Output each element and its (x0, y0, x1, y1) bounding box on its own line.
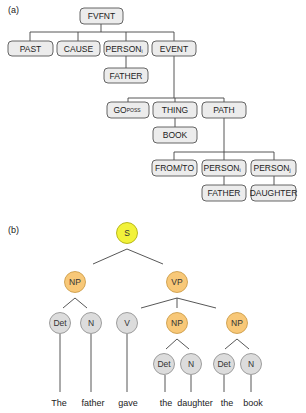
word: father (81, 398, 104, 408)
svg-text:PERSONi: PERSONi (203, 163, 240, 173)
svg-text:PATH: PATH (213, 105, 234, 115)
svg-text:CAUSE: CAUSE (64, 44, 94, 54)
svg-text:FATHER: FATHER (110, 71, 143, 81)
svg-text:NP: NP (231, 318, 243, 328)
svg-text:FROM/TO: FROM/TO (155, 163, 194, 173)
node-s: S (117, 223, 138, 244)
node-path: PATH (202, 102, 246, 118)
svg-text:Det: Det (53, 318, 67, 328)
svg-text:N: N (248, 359, 254, 369)
node-det-1: Det (50, 313, 71, 334)
node-np-indirect: NP (167, 313, 188, 334)
word: the (221, 398, 234, 408)
word: The (51, 398, 67, 408)
svg-text:PAST: PAST (20, 44, 42, 54)
word: gave (118, 398, 138, 408)
node-person-i: PERSONi (104, 41, 148, 56)
node-father-2: FATHER (202, 185, 246, 201)
svg-text:NP: NP (171, 318, 183, 328)
svg-text:BOOK: BOOK (163, 130, 188, 140)
svg-text:Det: Det (217, 359, 231, 369)
svg-text:V: V (124, 318, 130, 328)
node-det-3: Det (214, 354, 235, 375)
svg-text:N: N (88, 318, 94, 328)
diagram-canvas: (a) FVFNT PAST CAUSE PERSONi (0, 0, 306, 413)
svg-text:NP: NP (69, 277, 81, 287)
node-np-direct: NP (227, 313, 248, 334)
node-n-2: N (181, 354, 202, 375)
node-from-to: FROM/TO (152, 160, 197, 176)
node-cause: CAUSE (57, 41, 100, 56)
node-det-2: Det (154, 354, 175, 375)
svg-text:FVFNT: FVFNT (88, 11, 115, 21)
panel-b-label: (b) (8, 225, 19, 235)
node-np-subject: NP (65, 272, 86, 293)
svg-text:EVENT: EVENT (160, 44, 188, 54)
node-go-poss: GOPOSS (107, 102, 149, 118)
panel-a-label: (a) (8, 5, 19, 15)
node-v: V (117, 313, 138, 334)
svg-text:PERSONj: PERSONj (253, 163, 290, 173)
svg-text:N: N (188, 359, 194, 369)
word: daughter (177, 398, 213, 408)
svg-text:Det: Det (157, 359, 171, 369)
svg-text:THING: THING (162, 105, 188, 115)
word: the (160, 398, 173, 408)
svg-text:S: S (124, 228, 130, 238)
node-person-j: PERSONj (251, 160, 296, 176)
word: book (243, 398, 263, 408)
node-daughter: DAUGHTER (250, 185, 298, 201)
sentence-words: The father gave the daughter the book (51, 398, 263, 408)
node-n-3: N (241, 354, 262, 375)
svg-text:VP: VP (171, 277, 183, 287)
node-vp: VP (167, 272, 188, 293)
node-n-1: N (81, 313, 102, 334)
node-book: BOOK (153, 127, 197, 143)
node-thing: THING (153, 102, 197, 118)
svg-text:PERSONi: PERSONi (105, 44, 142, 54)
svg-text:DAUGHTER: DAUGHTER (250, 188, 298, 198)
node-past: PAST (8, 41, 53, 56)
node-fvfnt: FVFNT (80, 8, 123, 24)
svg-text:FATHER: FATHER (208, 188, 241, 198)
node-father-1: FATHER (104, 68, 148, 83)
node-person-i-2: PERSONi (202, 160, 246, 176)
node-event: EVENT (152, 41, 196, 56)
